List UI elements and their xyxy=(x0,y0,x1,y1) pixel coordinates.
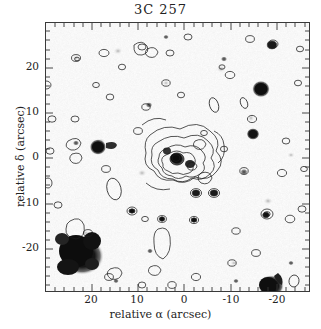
figure-3c257: 3C 257 xyxy=(0,0,321,329)
bright-star-southeast xyxy=(55,232,104,275)
figure-title: 3C 257 xyxy=(0,2,321,17)
x-axis-label: relative α (arcsec) xyxy=(0,308,321,321)
x-tick-label-10: 10 xyxy=(117,293,157,305)
sky-image-with-contours xyxy=(46,23,309,291)
x-tick-label-neg10: -10 xyxy=(211,293,251,305)
x-tick-label-20: 20 xyxy=(71,293,111,305)
plot-area xyxy=(45,22,310,292)
y-axis-label: relative δ (arcsec) xyxy=(14,57,27,257)
x-tick-label-0: 0 xyxy=(164,293,204,305)
x-tick-label-neg20: -20 xyxy=(257,293,297,305)
